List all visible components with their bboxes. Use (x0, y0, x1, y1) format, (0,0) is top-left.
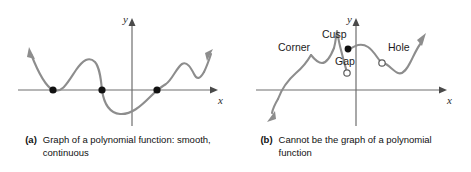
gap-lower-point (344, 70, 350, 76)
caption-b: (b) Cannot be the graph of a polynomial … (236, 134, 471, 160)
annotation-hole: Hole (388, 42, 410, 53)
polynomial-curve (27, 47, 213, 114)
right-end-arrow-b (417, 33, 426, 46)
hole-point (379, 60, 385, 66)
caption-tag-a: (a) (25, 134, 37, 147)
gap-upper-point (345, 46, 352, 53)
caption-text-a: Graph of a polynomial function: smooth, … (43, 134, 211, 160)
left-end-arrow-a (27, 47, 35, 59)
y-axis-label-b: y (346, 13, 352, 25)
caption-a: (a) Graph of a polynomial function: smoo… (0, 134, 236, 160)
panel-a: x y (a) Graph of a polynomial function: … (0, 0, 236, 172)
x-intercept-dot-1 (49, 86, 56, 93)
x-intercept-dot-2 (98, 86, 105, 93)
annotation-corner: Corner (278, 42, 310, 53)
caption-tag-b: (b) (260, 134, 272, 147)
y-axis-label-a: y (122, 13, 128, 25)
panel-b-plot: x y (236, 0, 471, 134)
caption-text-b: Cannot be the graph of a polynomial func… (279, 134, 447, 160)
x-axis-label-a: x (217, 94, 223, 106)
annotation-cusp: Cusp (322, 29, 347, 40)
figure-root: x y (a) Graph of a polynomial function: … (0, 0, 471, 172)
panel-a-plot: x y (0, 0, 236, 134)
annotation-gap: Gap (335, 56, 355, 67)
x-intercept-dot-3 (153, 86, 160, 93)
x-axis-a (18, 87, 218, 94)
x-axis-label-b: x (446, 94, 452, 106)
y-axis-b (353, 18, 360, 126)
panel-b: x y (236, 0, 471, 172)
